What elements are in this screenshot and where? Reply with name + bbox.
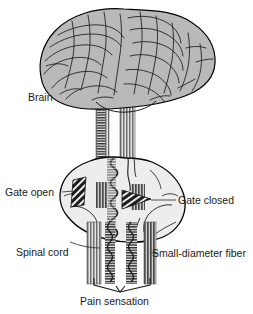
- label-brain: Brain: [28, 91, 53, 103]
- label-gate-open: Gate open: [5, 186, 54, 198]
- ascending-tract-right: [120, 100, 135, 162]
- descending-fiber-1: [87, 222, 101, 284]
- label-pain-sensation: Pain sensation: [80, 295, 149, 307]
- gate-control-diagram: Brain Gate open Gate closed Spinal cord …: [0, 0, 253, 314]
- cord-fiber-bundle-left: [96, 182, 108, 208]
- descending-fiber-3: [126, 222, 137, 284]
- descending-fiber-2: [105, 222, 115, 284]
- label-spinal-cord: Spinal cord: [16, 246, 69, 258]
- label-small-diameter-fiber: Small-diameter fiber: [152, 247, 246, 259]
- gate-open-wedge: [71, 177, 86, 207]
- label-gate-closed: Gate closed: [178, 194, 234, 206]
